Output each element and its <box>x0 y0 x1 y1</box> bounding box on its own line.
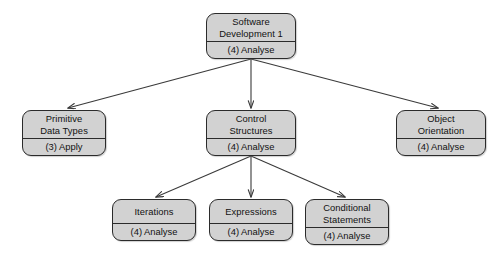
node-title: Primitive Data Types <box>23 111 105 138</box>
node-title-line: Object <box>418 113 464 124</box>
node-level: (4) Analyse <box>207 42 295 58</box>
edge-software-development-1-to-object-orientation <box>251 59 438 108</box>
node-title-line: Statements <box>323 214 371 225</box>
node-title: Expressions <box>210 200 292 223</box>
node-title: Control Structures <box>207 111 295 138</box>
node-level: (4) Analyse <box>210 224 292 240</box>
node-iterations[interactable]: Iterations (4) Analyse <box>112 199 196 241</box>
edge-control-structures-to-iterations <box>156 156 251 197</box>
node-title: Object Orientation <box>397 111 485 138</box>
node-level: (4) Analyse <box>113 224 195 240</box>
edge-software-development-1-to-primitive-data-types <box>68 59 251 108</box>
edge-control-structures-to-conditional-statements <box>251 156 345 197</box>
diagram-canvas: Software Development 1 (4) Analyse Primi… <box>0 0 493 256</box>
node-level: (3) Apply <box>23 139 105 155</box>
node-object-orientation[interactable]: Object Orientation (4) Analyse <box>396 110 486 156</box>
node-title-line: Conditional <box>323 202 371 213</box>
node-primitive-data-types[interactable]: Primitive Data Types (3) Apply <box>22 110 106 156</box>
node-title-line: Expressions <box>225 206 277 217</box>
node-level: (4) Analyse <box>207 139 295 155</box>
node-title-line: Software <box>219 16 283 27</box>
node-level: (4) Analyse <box>306 228 388 244</box>
node-software-development-1[interactable]: Software Development 1 (4) Analyse <box>206 13 296 59</box>
node-level: (4) Analyse <box>397 139 485 155</box>
node-conditional-statements[interactable]: Conditional Statements (4) Analyse <box>305 199 389 245</box>
node-title: Conditional Statements <box>306 200 388 227</box>
node-title-line: Structures <box>229 125 272 136</box>
node-title: Software Development 1 <box>207 14 295 41</box>
node-title-line: Control <box>229 113 272 124</box>
node-title: Iterations <box>113 200 195 223</box>
node-title-line: Iterations <box>134 206 173 217</box>
node-title-line: Primitive <box>40 113 88 124</box>
node-title-line: Data Types <box>40 125 88 136</box>
node-title-line: Development 1 <box>219 28 283 39</box>
node-expressions[interactable]: Expressions (4) Analyse <box>209 199 293 241</box>
node-title-line: Orientation <box>418 125 464 136</box>
node-control-structures[interactable]: Control Structures (4) Analyse <box>206 110 296 156</box>
